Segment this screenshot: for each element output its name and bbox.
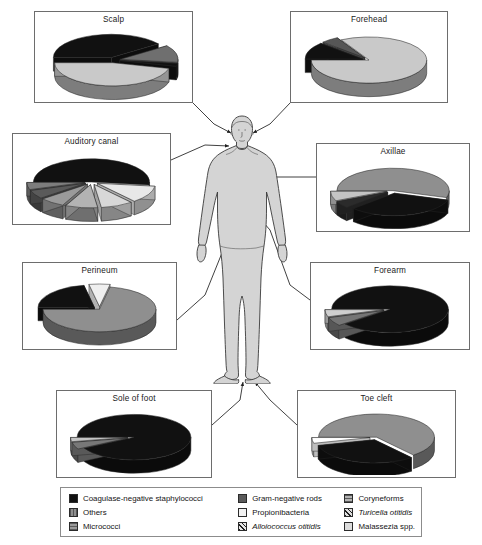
legend-swatch-solid [69,494,78,503]
pie-chart-axillae [317,158,469,229]
pie-slice [33,159,149,185]
legend-label: Malassezia spp. [358,522,415,531]
pie-chart-sole-of-foot [57,405,211,475]
legend-swatch-solid [238,508,247,517]
pie-slice [332,286,449,333]
legend-swatch-hstripe [344,494,353,503]
pie-panel-toe-cleft: Toe cleft [297,390,456,478]
pie-chart-scalp [35,26,192,100]
legend-column-1: Coagulase-negative staphylococciOthersMi… [69,492,238,533]
pie-chart-forehead [291,26,447,100]
panel-title-forehead: Forehead [291,15,447,24]
legend-item: Propionibacteria [238,506,344,519]
legend-column-3: CoryneformsTuricella otitidisMalassezia … [344,492,415,533]
legend-label: Turicella otitidis [358,508,412,517]
pie-panel-forehead: Forehead [290,11,448,103]
legend-label: Others [83,508,107,517]
legend-item: Micrococci [69,520,238,533]
legend-item: Others [69,506,238,519]
pie-panel-perineum: Perineum [22,262,177,350]
pie-chart-forearm [311,277,469,347]
legend-item: Coryneforms [344,492,415,505]
legend-swatch-diag [344,508,353,517]
legend-label: Micrococci [83,522,120,531]
pie-panel-sole-of-foot: Sole of foot [56,390,212,478]
panel-title-forearm: Forearm [311,266,469,275]
pie-slice [38,285,95,307]
pie-panel-forearm: Forearm [310,262,470,350]
legend-item: Malassezia spp. [344,520,415,533]
legend-swatch-solid [344,522,353,531]
panel-title-auditory-canal: Auditory canal [13,137,170,146]
legend-item: Gram-negative rods [238,492,344,505]
legend-label: Coagulase-negative staphylococci [83,494,203,503]
pie-panel-scalp: Scalp [34,11,193,103]
legend-swatch-grid [69,522,78,531]
legend-label: Alloiococcus otitidis [252,522,320,531]
legend-swatch-vstripe [69,508,78,517]
pie-panel-axillae: Axillae [316,143,470,232]
legend-label: Coryneforms [358,494,403,503]
legend-label: Propionibacteria [252,508,309,517]
panel-title-scalp: Scalp [35,15,192,24]
legend-item: Alloiococcus otitidis [238,520,344,533]
legend-swatch-solid [238,494,247,503]
legend-item: Coagulase-negative staphylococci [69,492,238,505]
taxa-legend: Coagulase-negative staphylococciOthersMi… [60,487,422,537]
legend-swatch-diag [238,522,247,531]
pie-chart-auditory-canal [13,148,170,222]
legend-column-2: Gram-negative rodsPropionibacteriaAlloio… [238,492,344,533]
legend-item: Turicella otitidis [344,506,415,519]
skin-microbiota-figure: ScalpForeheadAuditory canalAxillaePerine… [0,0,482,545]
legend-label: Gram-negative rods [252,494,322,503]
human-body-silhouette [196,112,288,384]
panel-title-toe-cleft: Toe cleft [298,394,455,403]
pie-panel-auditory-canal: Auditory canal [12,133,171,225]
panel-title-axillae: Axillae [317,147,469,156]
panel-title-perineum: Perineum [23,266,176,275]
panel-title-sole-of-foot: Sole of foot [57,394,211,403]
pie-chart-perineum [23,277,176,347]
pie-chart-toe-cleft [298,405,455,475]
